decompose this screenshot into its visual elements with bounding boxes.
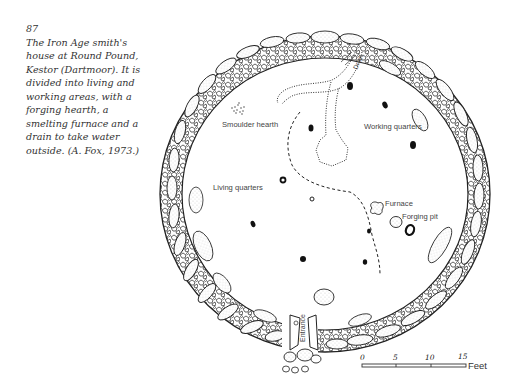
forging-pit (390, 217, 402, 228)
scale-tick-15: 15 (458, 352, 468, 361)
living-quarters-label: Living quarters (213, 183, 263, 192)
scale-tick-10: 10 (425, 353, 435, 362)
smoulder-hearth-label: Smoulder hearth (222, 120, 278, 129)
scale-tick-0: 0 (360, 353, 365, 362)
forging-pit-label: Forging pit (402, 212, 438, 221)
scale-unit: Feet (468, 360, 487, 371)
scale-tick-5: 5 (393, 353, 398, 362)
scale-bar (362, 364, 466, 367)
working-quarters-label: Working quarters (364, 122, 422, 131)
stone (314, 289, 334, 305)
furnace-label: Furnace (385, 199, 413, 208)
furnace (371, 202, 384, 214)
entrance-label: Entrance (299, 314, 306, 342)
